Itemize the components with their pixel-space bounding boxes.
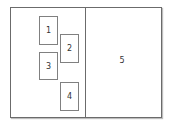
panel-divider [85, 7, 86, 118]
box-3: 3 [39, 52, 58, 80]
right-panel-label: 5 [116, 56, 128, 65]
box-4-label: 4 [67, 92, 72, 101]
box-1: 1 [39, 16, 58, 45]
outer-frame [10, 7, 162, 118]
box-2: 2 [60, 34, 79, 63]
box-4: 4 [60, 82, 79, 111]
box-2-label: 2 [67, 44, 72, 53]
box-3-label: 3 [46, 62, 51, 71]
box-1-label: 1 [46, 26, 51, 35]
